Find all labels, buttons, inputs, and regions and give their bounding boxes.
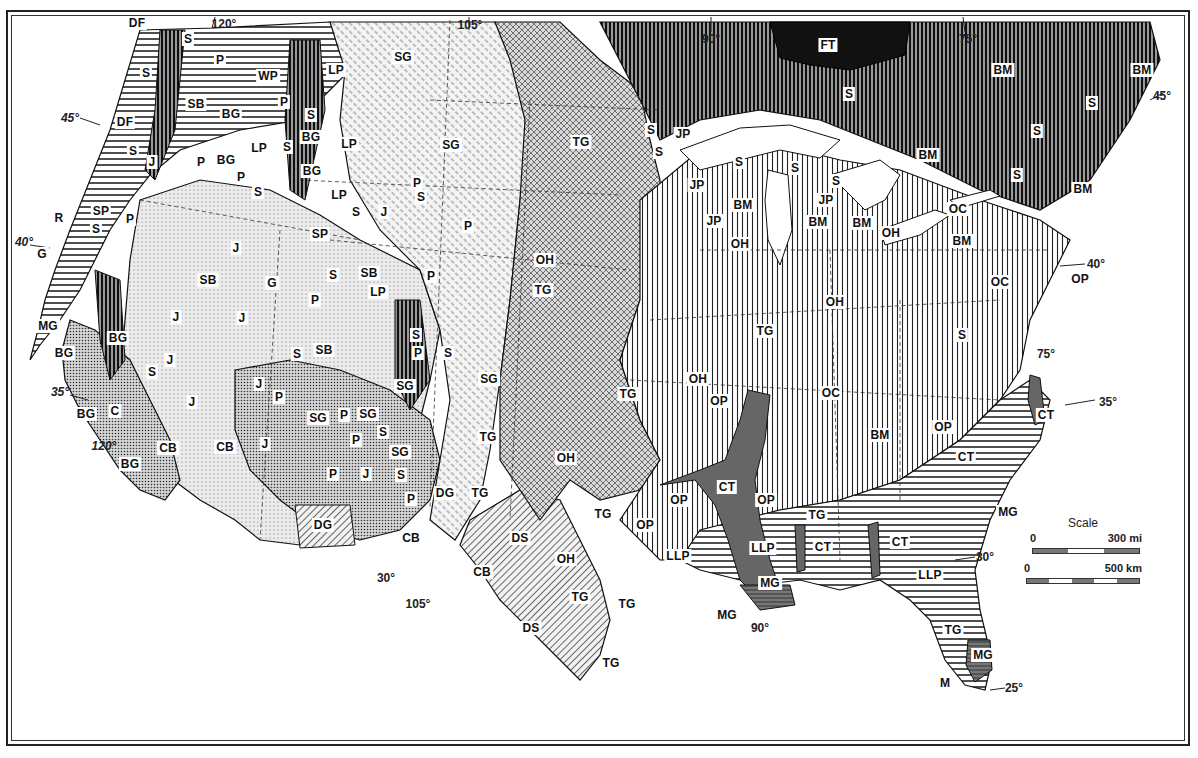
- region-label-s: S: [1086, 96, 1098, 110]
- region-label-ct: CT: [1036, 408, 1056, 422]
- region-label-ct: CT: [956, 450, 976, 464]
- region-label-p: P: [124, 212, 136, 226]
- region-tall-grass-prairie: [495, 22, 660, 520]
- region-label-p: P: [214, 53, 226, 67]
- region-label-tg: TG: [469, 486, 490, 500]
- region-label-op: OP: [668, 493, 690, 507]
- region-label-bm: BM: [850, 216, 873, 230]
- scale-bar: Scale 0 300 mi 0 500 km: [1028, 516, 1140, 596]
- region-label-s: S: [1011, 168, 1023, 182]
- longitude-label: 75°: [1037, 348, 1055, 361]
- region-label-bm: BM: [950, 234, 973, 248]
- region-label-oh: OH: [534, 253, 556, 267]
- region-label-s: S: [653, 145, 665, 159]
- region-label-bm: BM: [991, 63, 1014, 77]
- region-label-jp: JP: [704, 214, 723, 228]
- region-label-dg: DG: [434, 486, 456, 500]
- region-label-p: P: [327, 467, 339, 481]
- region-label-p: P: [235, 170, 247, 184]
- region-label-bg: BG: [75, 407, 97, 421]
- region-label-mg: MG: [758, 576, 782, 590]
- region-label-tg: TG: [569, 590, 590, 604]
- region-label-ds: DS: [509, 531, 530, 545]
- region-label-s: S: [90, 222, 102, 236]
- region-label-df: DF: [127, 16, 147, 30]
- region-label-wp: WP: [256, 69, 280, 83]
- region-label-s: S: [146, 365, 158, 379]
- region-label-mg: MG: [715, 608, 739, 622]
- region-label-p: P: [273, 390, 285, 404]
- region-label-j: J: [187, 395, 198, 409]
- region-label-dg: DG: [312, 518, 334, 532]
- region-label-s: S: [252, 185, 264, 199]
- region-label-bm: BM: [806, 215, 829, 229]
- region-label-p: P: [350, 433, 362, 447]
- longitude-label: 105°: [406, 598, 431, 611]
- region-label-cb: CB: [157, 441, 179, 455]
- region-label-tg: TG: [806, 508, 827, 522]
- region-label-cb: CB: [214, 440, 236, 454]
- vegetation-map: [0, 0, 1198, 758]
- region-label-s: S: [789, 161, 801, 175]
- region-label-op: OP: [755, 493, 777, 507]
- region-label-j: J: [237, 311, 248, 325]
- region-label-oh: OH: [880, 226, 902, 240]
- region-label-oh: OH: [729, 237, 751, 251]
- region-alabama-cypress: [795, 525, 805, 572]
- region-label-oc: OC: [820, 386, 842, 400]
- region-label-lp: LP: [339, 137, 359, 151]
- region-label-s: S: [127, 144, 139, 158]
- region-label-op: OP: [932, 420, 954, 434]
- region-label-s: S: [1031, 124, 1043, 138]
- region-label-s: S: [843, 87, 855, 101]
- latitude-label: 25°: [1005, 682, 1023, 695]
- region-label-s: S: [377, 425, 389, 439]
- region-label-p: P: [405, 492, 417, 506]
- region-label-p: P: [309, 293, 321, 307]
- region-label-s: S: [733, 155, 745, 169]
- region-label-sb: SB: [185, 97, 206, 111]
- scale-km-start: 0: [1024, 562, 1030, 574]
- region-label-tg: TG: [617, 387, 638, 401]
- region-label-c: C: [109, 404, 122, 418]
- region-label-bm: BM: [1130, 63, 1153, 77]
- region-label-g: G: [265, 276, 279, 290]
- region-label-bg: BG: [300, 130, 322, 144]
- region-label-ct: CT: [813, 540, 833, 554]
- region-label-jp: JP: [816, 193, 835, 207]
- region-label-s: S: [291, 347, 303, 361]
- region-label-p: P: [412, 346, 424, 360]
- region-label-op: OP: [1069, 272, 1091, 286]
- scale-title: Scale: [1068, 516, 1098, 530]
- region-label-llp: LLP: [749, 541, 776, 555]
- region-label-ds: DS: [520, 621, 541, 635]
- region-label-p: P: [195, 155, 207, 169]
- longitude-label: 105°: [458, 19, 483, 32]
- region-label-lp: LP: [249, 141, 269, 155]
- scale-km-bar: [1026, 578, 1140, 584]
- region-label-s: S: [327, 268, 339, 282]
- region-label-sg: SG: [440, 138, 462, 152]
- region-label-sb: SB: [313, 343, 334, 357]
- region-label-p: P: [411, 176, 423, 190]
- region-label-bm: BM: [1071, 182, 1094, 196]
- region-label-j: J: [379, 205, 390, 219]
- region-label-s: S: [395, 468, 407, 482]
- region-label-sb: SB: [197, 273, 218, 287]
- region-label-s: S: [415, 190, 427, 204]
- latitude-label: 45°: [1153, 90, 1171, 103]
- region-label-tg: TG: [592, 507, 613, 521]
- region-label-s: S: [830, 174, 842, 188]
- region-label-p: P: [338, 408, 350, 422]
- region-label-sg: SG: [478, 372, 500, 386]
- region-label-j: J: [231, 241, 242, 255]
- region-label-sg: SG: [392, 50, 414, 64]
- region-label-sp: SP: [310, 227, 330, 241]
- region-texas-desert: [460, 490, 610, 680]
- region-label-bg: BG: [220, 107, 242, 121]
- region-label-oc: OC: [989, 275, 1011, 289]
- region-label-oh: OH: [824, 295, 846, 309]
- region-label-llp: LLP: [916, 568, 943, 582]
- region-label-p: P: [278, 95, 290, 109]
- region-label-s: S: [442, 346, 454, 360]
